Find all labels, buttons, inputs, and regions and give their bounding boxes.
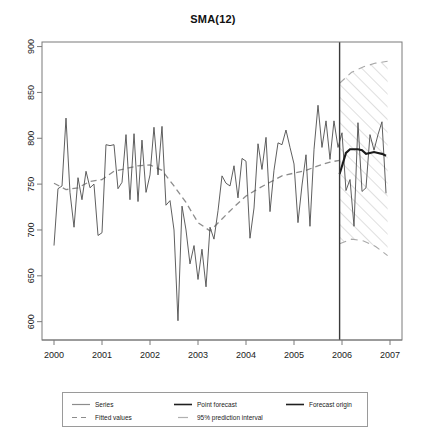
legend-label-prediction-interval: 95% prediction interval	[197, 413, 263, 422]
data-series	[54, 105, 386, 320]
svg-text:800: 800	[26, 131, 36, 146]
legend-row-1: Series Point forecast Forecast origin	[63, 398, 367, 411]
svg-text:900: 900	[26, 39, 36, 54]
legend-entry-fitted-values[interactable]: Fitted values	[71, 411, 132, 424]
legend-entry-point-forecast[interactable]: Point forecast	[173, 398, 237, 411]
prediction-interval-band	[340, 61, 388, 255]
legend-label-forecast-origin: Forecast origin	[309, 400, 352, 409]
svg-text:2007: 2007	[380, 350, 400, 360]
legend: Series Point forecast Forecast origin Fi…	[62, 392, 368, 427]
axis-ticks	[37, 47, 390, 345]
legend-label-point-forecast: Point forecast	[197, 400, 237, 409]
svg-text:850: 850	[26, 85, 36, 100]
hatch-line-light-icon	[173, 413, 193, 422]
dashed-line-gray-icon	[71, 413, 91, 422]
legend-label-series: Series	[95, 400, 113, 409]
svg-text:2001: 2001	[92, 350, 112, 360]
svg-text:2000: 2000	[44, 350, 64, 360]
svg-text:750: 750	[26, 177, 36, 192]
svg-text:700: 700	[26, 222, 36, 237]
svg-text:2006: 2006	[332, 350, 352, 360]
svg-text:2003: 2003	[188, 350, 208, 360]
plot-area: 2000200120022003200420052006200760065070…	[0, 0, 426, 446]
svg-text:2002: 2002	[140, 350, 160, 360]
legend-row-2: Fitted values 95% prediction interval	[63, 411, 367, 424]
legend-entry-prediction-interval[interactable]: 95% prediction interval	[173, 411, 263, 424]
solid-line-dark-icon	[285, 400, 305, 409]
svg-text:2005: 2005	[284, 350, 304, 360]
solid-line-gray-icon	[71, 400, 91, 409]
legend-label-fitted-values: Fitted values	[95, 413, 132, 422]
svg-text:650: 650	[26, 268, 36, 283]
chart-page: SMA(12) 20002001200220032004200520062007…	[0, 0, 426, 446]
solid-line-dark-icon	[173, 400, 193, 409]
legend-entry-forecast-origin[interactable]: Forecast origin	[285, 398, 352, 411]
svg-text:2004: 2004	[236, 350, 256, 360]
legend-entry-series[interactable]: Series	[71, 398, 113, 411]
svg-text:600: 600	[26, 314, 36, 329]
